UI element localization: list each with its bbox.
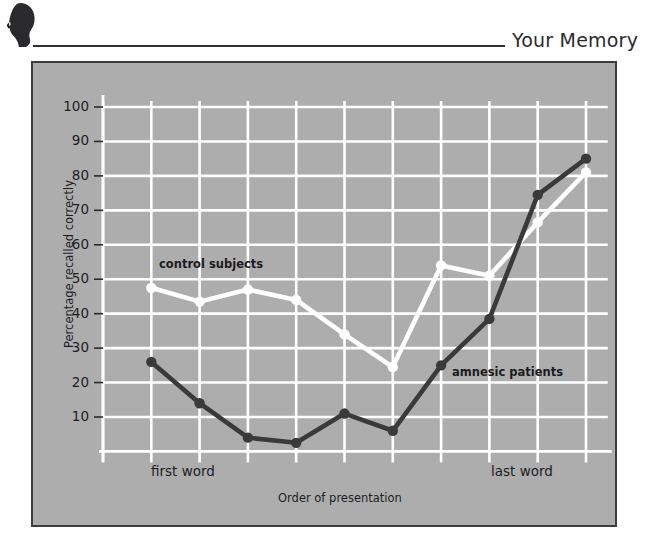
y-axis-title: Percentage recalled correctly bbox=[62, 188, 76, 348]
chart-figure: 102030405060708090100 Percentage recalle… bbox=[31, 61, 617, 527]
series-annotation-control-subjects: control subjects bbox=[159, 257, 263, 271]
plot-area: 102030405060708090100 Percentage recalle… bbox=[33, 63, 615, 525]
y-axis-tick-20: 20 bbox=[55, 374, 89, 390]
series-line-amnesic-patients bbox=[146, 153, 591, 448]
head-silhouette-icon bbox=[6, 2, 40, 48]
y-axis-tick-90: 90 bbox=[55, 132, 89, 148]
chart-canvas bbox=[33, 63, 615, 525]
page-header: Your Memory bbox=[0, 0, 649, 58]
x-axis-label-last-word: last word bbox=[491, 463, 553, 479]
y-axis-tick-100: 100 bbox=[55, 98, 89, 114]
gridlines bbox=[103, 101, 608, 451]
x-axis-title: Order of presentation bbox=[278, 491, 402, 505]
y-axis-tick-10: 10 bbox=[55, 408, 89, 424]
header-divider-rule bbox=[33, 45, 505, 47]
x-axis-label-first-word: first word bbox=[151, 463, 215, 479]
series-annotation-amnesic-patients: amnesic patients bbox=[452, 365, 563, 379]
page-title: Your Memory bbox=[512, 29, 638, 51]
